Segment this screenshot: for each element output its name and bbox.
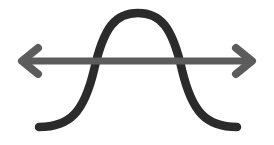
icon-graphic [0, 0, 274, 145]
bell-curve-range-icon [0, 0, 274, 145]
bell-curve-icon [39, 13, 237, 127]
